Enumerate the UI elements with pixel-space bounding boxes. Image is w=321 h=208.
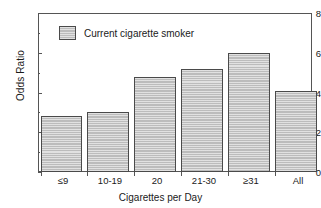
bar-category-1[interactable] (87, 112, 129, 172)
x-tick-label-0: ≤9 (41, 176, 85, 186)
bar-category-5[interactable] (275, 91, 317, 172)
legend-label-current-cigarette-smoker: Current cigarette smoker (84, 28, 194, 39)
bar-category-0[interactable] (41, 116, 82, 172)
bar-chart-figure: Odds Ratio 8 6 4 2 0 ≤9 10-19 20 21-30 ≥… (0, 0, 321, 208)
x-tick-label-5: All (276, 176, 320, 186)
bar-category-2[interactable] (134, 77, 176, 172)
bar-category-4[interactable] (228, 53, 270, 172)
x-axis-title: Cigarettes per Day (0, 192, 321, 203)
y-axis-title: Odds Ratio (15, 16, 26, 136)
legend-swatch-current-cigarette-smoker (59, 26, 76, 40)
x-tick-label-3: 21-30 (182, 176, 226, 186)
x-tick-label-2: 20 (135, 176, 179, 186)
legend: Current cigarette smoker (59, 26, 194, 40)
bar-category-3[interactable] (181, 69, 223, 172)
x-tick-label-1: 10-19 (88, 176, 132, 186)
x-tick-label-4: ≥31 (229, 176, 273, 186)
